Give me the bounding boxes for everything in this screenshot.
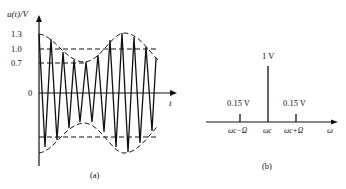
caption-a: (a) [90, 170, 100, 180]
x-axis-label: t [169, 98, 172, 108]
caption-b: (b) [262, 161, 272, 171]
panel-a-waveform: u(t)/V 1.3 1.0 0.7 0 t (a) [7, 9, 177, 180]
y-tick-0: 0 [28, 88, 32, 98]
y-tick-1.0: 1.0 [11, 44, 22, 54]
panel-b-spectrum: 0.15 V 1 V 0.15 V ωc−Ω ωc ωc+Ω ω (b) [206, 51, 338, 171]
freq-label-lower: ωc−Ω [228, 126, 248, 135]
y-tick-1.3: 1.3 [11, 29, 22, 39]
spike-label-carrier: 1 V [262, 51, 275, 61]
y-tick-0.7: 0.7 [11, 58, 22, 68]
spike-label-upper: 0.15 V [283, 98, 307, 108]
y-axis-arrow [36, 15, 42, 22]
freq-label-carrier: ωc [263, 126, 272, 135]
spike-label-lower: 0.15 V [227, 98, 251, 108]
x-axis-arrow [170, 90, 177, 96]
omega-axis-label: ω [327, 125, 333, 135]
y-axis-label: u(t)/V [7, 9, 29, 19]
omega-axis-arrow [331, 120, 338, 125]
freq-label-upper: ωc+Ω [284, 126, 304, 135]
